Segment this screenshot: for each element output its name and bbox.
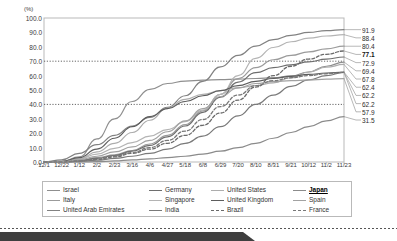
- legend-swatch-japan-icon: [293, 190, 306, 191]
- end-label-united-kingdom: 62.4: [362, 84, 375, 91]
- chart-legend: IsraelGermanyUnited StatesJapanItalySing…: [42, 181, 352, 217]
- end-label-israel: 69.4: [362, 67, 375, 74]
- legend-label-united-states: United States: [227, 185, 266, 195]
- end-label-italy: 80.4: [362, 43, 375, 50]
- legend-item-india[interactable]: India: [149, 205, 211, 215]
- bottom-left-tab-shape: [0, 232, 265, 241]
- legend-swatch-brazil-icon: [211, 210, 224, 211]
- legend-swatch-italy-icon: [47, 200, 60, 201]
- legend-label-singapore: Singapore: [165, 195, 195, 205]
- end-label-brazil: 77.1: [362, 51, 375, 58]
- legend-item-spain[interactable]: Spain: [293, 195, 349, 205]
- legend-swatch-france-icon: [293, 210, 306, 211]
- end-label-india: 62.2: [362, 92, 375, 99]
- legend-swatch-singapore-icon: [149, 200, 162, 201]
- legend-item-italy[interactable]: Italy: [47, 195, 149, 205]
- legend-swatch-united-states-icon: [211, 190, 224, 191]
- legend-label-brazil: Brazil: [227, 205, 243, 215]
- legend-item-united-states[interactable]: United States: [211, 185, 293, 195]
- legend-item-france[interactable]: France: [293, 205, 349, 215]
- legend-item-united-kingdom[interactable]: United Kingdom: [211, 195, 293, 205]
- legend-label-france: France: [309, 205, 329, 215]
- end-label-singapore: 88.4: [362, 34, 375, 41]
- legend-grid: IsraelGermanyUnited StatesJapanItalySing…: [47, 185, 347, 215]
- legend-item-germany[interactable]: Germany: [149, 185, 211, 195]
- legend-label-united-kingdom: United Kingdom: [227, 195, 273, 205]
- legend-label-germany: Germany: [165, 185, 192, 195]
- legend-label-japan: Japan: [309, 185, 328, 195]
- legend-label-italy: Italy: [63, 195, 75, 205]
- end-value-labels: 91.988.480.477.172.969.467.862.462.262.2…: [0, 0, 397, 170]
- end-label-united-arab-emirates: 91.9: [362, 26, 375, 33]
- legend-label-israel: Israel: [63, 185, 79, 195]
- legend-swatch-germany-icon: [149, 190, 162, 191]
- legend-item-brazil[interactable]: Brazil: [211, 205, 293, 215]
- vaccination-rate-line-chart: (%) 100.090.080.070.060.050.040.030.020.…: [0, 0, 397, 241]
- end-label-france: 62.2: [362, 100, 375, 107]
- end-label-japan: 31.5: [362, 117, 375, 124]
- legend-item-singapore[interactable]: Singapore: [149, 195, 211, 205]
- legend-swatch-israel-icon: [47, 190, 60, 191]
- legend-swatch-spain-icon: [293, 200, 306, 201]
- legend-swatch-india-icon: [149, 210, 162, 211]
- legend-label-spain: Spain: [309, 195, 326, 205]
- end-label-united-states: 67.8: [362, 76, 375, 83]
- legend-label-india: India: [165, 205, 179, 215]
- end-label-germany: 72.9: [362, 59, 375, 66]
- end-label-spain: 57.9: [362, 108, 375, 115]
- legend-label-united-arab-emirates: United Arab Emirates: [63, 205, 124, 215]
- legend-item-israel[interactable]: Israel: [47, 185, 149, 195]
- legend-item-united-arab-emirates[interactable]: United Arab Emirates: [47, 205, 149, 215]
- legend-swatch-united-kingdom-icon: [211, 200, 224, 201]
- legend-swatch-united-arab-emirates-icon: [47, 210, 60, 211]
- dotted-separator-rule: [0, 228, 397, 229]
- legend-item-japan[interactable]: Japan: [293, 185, 349, 195]
